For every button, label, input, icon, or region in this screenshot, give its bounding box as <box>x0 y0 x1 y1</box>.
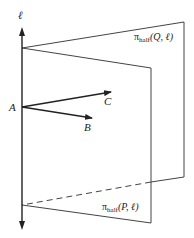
point-b-label: B <box>84 121 91 133</box>
half-plane-q <box>22 22 184 205</box>
half-plane-q-label: πhalf(Q, ℓ) <box>134 31 174 44</box>
half-plane-p-label: πhalf(P, ℓ) <box>102 201 139 214</box>
point-c-label: C <box>104 95 112 107</box>
line-l <box>19 27 25 230</box>
vector-ab <box>22 107 92 118</box>
arrow-down-icon <box>19 221 25 230</box>
point-a-label: A <box>8 101 16 113</box>
arrow-up-icon <box>19 27 25 36</box>
half-planes-diagram: ℓ A C B πhalf(Q, ℓ) πhalf(P, ℓ) <box>0 0 194 238</box>
half-plane-p <box>22 48 151 223</box>
line-label: ℓ <box>18 9 23 21</box>
vector-ac <box>22 92 111 107</box>
